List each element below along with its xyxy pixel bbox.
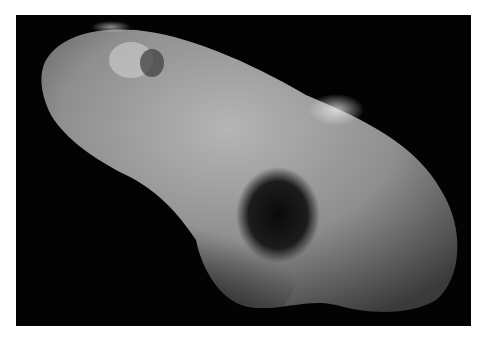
bright-patch: [308, 94, 364, 126]
asteroid-photo: [16, 15, 471, 326]
large-crater-shadow: [236, 167, 320, 263]
bright-patch-top: [91, 21, 131, 33]
crater-top-left-shadow: [140, 49, 164, 77]
asteroid-illustration: [16, 15, 471, 326]
